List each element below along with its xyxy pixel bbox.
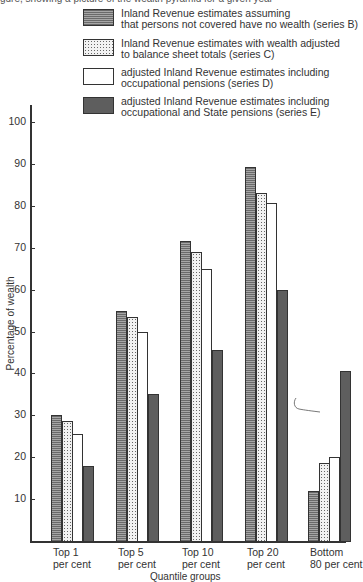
y-tick-label: 10	[0, 492, 26, 504]
y-tick-label: 50	[0, 325, 26, 337]
stray-pen-mark	[292, 396, 322, 416]
y-tick	[30, 332, 35, 333]
y-tick	[30, 457, 35, 458]
y-axis	[30, 105, 32, 542]
bar	[277, 290, 288, 542]
bar	[127, 317, 138, 542]
y-tick-label: 40	[0, 366, 26, 378]
bar	[319, 463, 330, 542]
y-tick-label: 100	[0, 115, 26, 127]
bar	[191, 252, 202, 542]
bar	[116, 311, 127, 542]
bar	[148, 394, 159, 542]
y-tick	[30, 499, 35, 500]
bar	[212, 350, 223, 542]
bar	[72, 434, 83, 542]
x-category-label: Top 1per cent	[53, 546, 91, 570]
y-tick	[30, 122, 35, 123]
y-tick	[30, 248, 35, 249]
bar	[340, 371, 351, 542]
bar	[201, 269, 212, 542]
bar	[308, 491, 319, 542]
bar	[329, 457, 340, 542]
bar	[137, 332, 148, 543]
y-tick-label: 30	[0, 408, 26, 420]
y-tick	[30, 206, 35, 207]
bar	[256, 193, 267, 542]
y-tick-label: 80	[0, 199, 26, 211]
y-tick	[30, 415, 35, 416]
x-category-label: Top 20per cent	[247, 546, 285, 570]
x-category-label: Bottom80 per cent	[310, 546, 363, 570]
y-tick-label: 70	[0, 241, 26, 253]
y-tick	[30, 164, 35, 165]
bar	[51, 415, 62, 542]
y-tick-label: 90	[0, 157, 26, 169]
x-axis-title: Quantile groups	[150, 571, 250, 582]
bar	[180, 241, 191, 542]
bar	[245, 167, 256, 542]
x-category-label: Top 5per cent	[118, 546, 156, 570]
bar	[62, 421, 73, 542]
x-category-label: Top 10per cent	[182, 546, 220, 570]
bar	[83, 466, 94, 542]
y-tick	[30, 290, 35, 291]
y-tick-label: 60	[0, 283, 26, 295]
y-tick	[30, 373, 35, 374]
y-tick-label: 20	[0, 450, 26, 462]
bar	[266, 203, 277, 542]
